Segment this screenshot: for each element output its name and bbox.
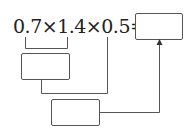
arrow-up-icon xyxy=(157,39,163,45)
bracket-first-two-terms xyxy=(26,37,68,49)
connector-lines xyxy=(0,0,186,134)
connector-step2-to-answer xyxy=(99,44,160,113)
connector-step1-to-third-term xyxy=(42,37,108,94)
